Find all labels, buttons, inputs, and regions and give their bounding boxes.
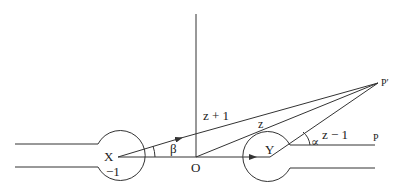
- angle-beta-arc: [153, 146, 155, 157]
- label-x-value: −1: [106, 164, 120, 179]
- label-x: X: [104, 149, 114, 164]
- diagram-svg: X −1 β O z + 1 z Y ∝ z − 1 P P′: [0, 0, 405, 193]
- label-p: P: [373, 132, 379, 143]
- label-z-minus-1: z − 1: [322, 127, 348, 142]
- diagram-canvas: X −1 β O z + 1 z Y ∝ z − 1 P P′: [0, 0, 405, 193]
- label-o: O: [191, 160, 200, 175]
- label-beta: β: [170, 141, 177, 156]
- label-p-prime: P′: [381, 77, 389, 88]
- label-y: Y: [265, 142, 275, 157]
- label-z: z: [258, 117, 263, 131]
- label-z-plus-1: z + 1: [203, 108, 229, 123]
- label-alpha: ∝: [311, 135, 319, 149]
